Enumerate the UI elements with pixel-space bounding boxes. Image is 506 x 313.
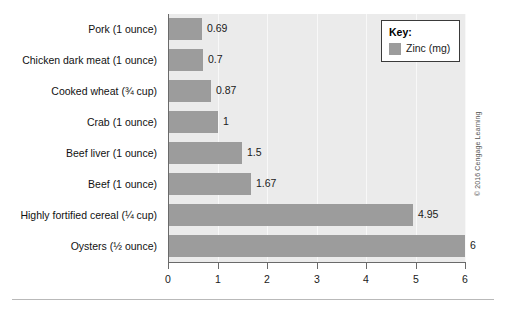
x-tick-label: 0 (156, 272, 180, 286)
x-tick (465, 263, 466, 269)
category-label: Beef liver (1 ounce) (66, 146, 157, 160)
bar-value-label: 0.69 (207, 21, 227, 35)
x-tick-label: 5 (404, 272, 428, 286)
bar-value-label: 1.67 (256, 176, 276, 190)
y-axis-line (168, 14, 169, 263)
x-tick-label: 6 (453, 272, 477, 286)
bar-value-label: 1.5 (247, 145, 262, 159)
bar-value-label: 0.87 (216, 83, 236, 97)
copyright-credit: © 2016 Cengage Learning (474, 111, 481, 196)
bar (168, 18, 202, 40)
bar (168, 111, 218, 133)
bar (168, 49, 203, 71)
bar-row: 1.67 (168, 169, 465, 200)
x-tick (366, 263, 367, 269)
bar-value-label: 6 (470, 238, 476, 252)
x-tick-label: 4 (354, 272, 378, 286)
bar-row: 1.5 (168, 138, 465, 169)
bar-row: 1 (168, 107, 465, 138)
x-tick (168, 263, 169, 269)
x-tick (317, 263, 318, 269)
bar-row: 0.87 (168, 76, 465, 107)
chart-figure: Pork (1 ounce)Chicken dark meat (1 ounce… (0, 0, 506, 313)
category-label: Oysters (½ ounce) (71, 239, 157, 253)
bar-row: 6 (168, 231, 465, 262)
legend-entry-zinc: Zinc (mg) (389, 42, 452, 55)
x-tick (416, 263, 417, 269)
bar-value-label: 1 (223, 114, 229, 128)
category-label: Beef (1 ounce) (88, 177, 157, 191)
x-tick (218, 263, 219, 269)
bottom-divider (12, 299, 494, 300)
bar-value-label: 0.7 (208, 52, 223, 66)
x-tick (267, 263, 268, 269)
category-label: Chicken dark meat (1 ounce) (22, 53, 157, 67)
bar (168, 235, 465, 257)
x-tick-label: 2 (255, 272, 279, 286)
legend-title: Key: (389, 26, 452, 39)
bar (168, 173, 251, 195)
category-label: Pork (1 ounce) (88, 22, 157, 36)
bar (168, 204, 413, 226)
bar-value-label: 4.95 (418, 207, 438, 221)
x-tick-label: 1 (206, 272, 230, 286)
bar (168, 142, 242, 164)
x-tick-label: 3 (305, 272, 329, 286)
category-axis-labels: Pork (1 ounce)Chicken dark meat (1 ounce… (0, 14, 163, 262)
bar (168, 80, 211, 102)
legend-swatch-icon (389, 43, 401, 55)
gridline (465, 14, 466, 262)
category-label: Crab (1 ounce) (87, 115, 157, 129)
category-label: Highly fortified cereal (¼ cup) (20, 208, 157, 222)
chart-legend: Key: Zinc (mg) (381, 20, 460, 62)
category-label: Cooked wheat (¾ cup) (51, 84, 157, 98)
bar-row: 4.95 (168, 200, 465, 231)
legend-entry-label: Zinc (mg) (406, 42, 450, 55)
